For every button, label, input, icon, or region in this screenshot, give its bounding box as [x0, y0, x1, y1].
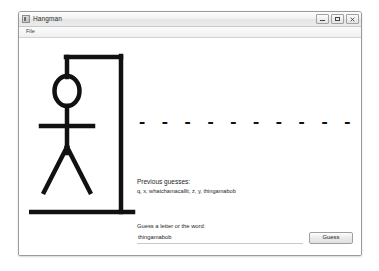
minimize-button[interactable] [316, 14, 329, 24]
close-icon [347, 15, 358, 23]
guess-input[interactable] [137, 233, 303, 244]
app-icon [22, 15, 30, 23]
close-button[interactable] [346, 14, 359, 24]
window-controls [316, 14, 359, 24]
menu-item-file[interactable]: File [23, 29, 38, 35]
word-display: - - - - - - - - - - - [137, 114, 361, 131]
maximize-button[interactable] [331, 14, 344, 24]
guess-input-row: Guess [137, 232, 353, 244]
guess-section: Guess a letter or the word: Guess [137, 223, 353, 244]
hangman-window: Hangman File [18, 11, 362, 256]
maximize-icon [332, 15, 343, 23]
minimize-icon [317, 15, 328, 23]
word-display-area: - - - - - - - - - - - [137, 110, 337, 134]
previous-guesses-list: q, x, whatchamacallit, z, y, thingamabob [137, 188, 352, 194]
guess-button[interactable]: Guess [309, 232, 353, 244]
guess-input-label: Guess a letter or the word: [137, 223, 353, 229]
window-titlebar[interactable]: Hangman [19, 12, 361, 27]
window-title: Hangman [33, 16, 62, 23]
game-client-area: - - - - - - - - - - - Previous guesses: … [19, 38, 361, 255]
previous-guesses-heading: Previous guesses: [137, 178, 352, 185]
previous-guesses-section: Previous guesses: q, x, whatchamacallit,… [137, 178, 352, 195]
hangman-drawing [29, 40, 149, 220]
menubar: File [19, 27, 361, 38]
